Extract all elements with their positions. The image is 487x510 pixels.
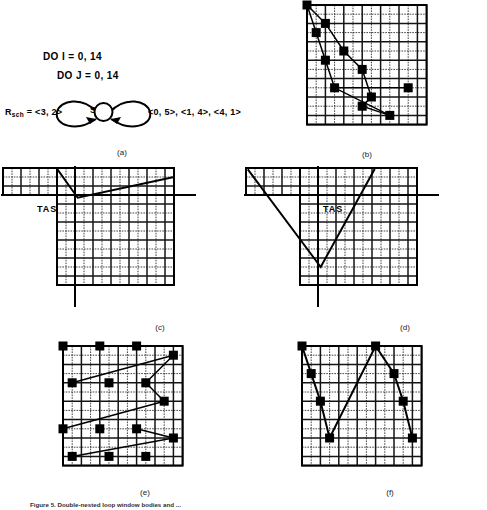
iteration-marker <box>339 47 348 56</box>
iteration-marker <box>358 102 367 111</box>
iteration-marker <box>325 434 334 443</box>
iteration-marker <box>68 378 77 387</box>
panel-b-plot <box>245 0 487 168</box>
panel-b-iteration-space <box>245 0 487 168</box>
panel-label-c: (c) <box>140 323 180 332</box>
iteration-marker <box>371 342 380 351</box>
iteration-marker <box>358 65 367 74</box>
iteration-marker <box>59 424 68 433</box>
figure-root: DO I = 0, 14 DO J = 0, 14 Rsch = <3, 2> … <box>0 0 487 510</box>
panel-e-plot <box>0 340 243 510</box>
tas-label-d: TAS <box>323 204 343 214</box>
iteration-marker <box>330 83 339 92</box>
iteration-marker <box>399 397 408 406</box>
iteration-marker <box>132 424 141 433</box>
iteration-marker <box>312 28 321 37</box>
panel-a-automaton: DO I = 0, 14 DO J = 0, 14 Rsch = <3, 2> … <box>0 0 243 168</box>
iteration-marker <box>141 378 150 387</box>
iteration-marker <box>303 1 312 10</box>
panel-label-b: (b) <box>347 150 387 159</box>
automaton-diagram <box>0 0 243 168</box>
iteration-marker <box>105 452 114 461</box>
iteration-marker <box>169 351 178 360</box>
iteration-marker <box>367 93 376 102</box>
iteration-marker <box>408 434 417 443</box>
iteration-marker <box>95 342 104 351</box>
tas-label-c: TAS <box>37 204 57 214</box>
iteration-marker <box>68 452 77 461</box>
panel-label-a: (a) <box>102 148 142 157</box>
iteration-marker <box>141 452 150 461</box>
iteration-marker <box>390 369 399 378</box>
iteration-marker <box>321 56 330 65</box>
iteration-marker <box>404 83 413 92</box>
iteration-marker <box>169 434 178 443</box>
iteration-marker <box>59 342 68 351</box>
panel-c-tas-window: TAS <box>0 168 243 340</box>
panel-d-plot <box>245 168 487 340</box>
panel-f-iteration-space <box>245 340 487 510</box>
grid <box>3 168 57 195</box>
panel-e-iteration-space <box>0 340 243 510</box>
dependence-path <box>72 355 173 383</box>
panel-label-e: (e) <box>125 488 165 497</box>
panel-f-plot <box>245 340 487 510</box>
iteration-marker <box>132 342 141 351</box>
iteration-marker <box>95 424 104 433</box>
grid <box>246 168 300 195</box>
iteration-marker <box>307 369 316 378</box>
dependence-path <box>63 401 164 429</box>
iteration-marker <box>316 397 325 406</box>
dependence-path <box>248 169 375 267</box>
figure-caption: Figure 5. Double-nested loop window bodi… <box>30 501 460 510</box>
panel-d-tas-window: TAS <box>245 168 487 340</box>
iteration-marker <box>105 378 114 387</box>
panel-label-f: (f) <box>370 488 410 497</box>
iteration-marker <box>160 397 169 406</box>
iteration-marker <box>321 19 330 28</box>
iteration-marker <box>298 342 307 351</box>
iteration-marker <box>385 111 394 120</box>
panel-c-plot <box>0 168 243 340</box>
state-circle <box>95 103 113 121</box>
panel-label-d: (d) <box>385 323 425 332</box>
